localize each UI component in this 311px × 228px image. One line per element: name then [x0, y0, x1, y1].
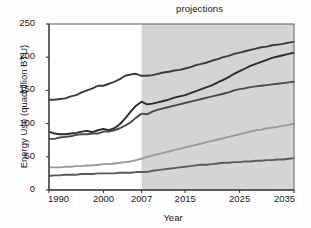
projections-shaded-region	[142, 24, 294, 190]
energy-use-line-chart: projections Energy Use (quadrillion BTU)…	[0, 0, 311, 228]
plot-canvas	[0, 0, 311, 228]
